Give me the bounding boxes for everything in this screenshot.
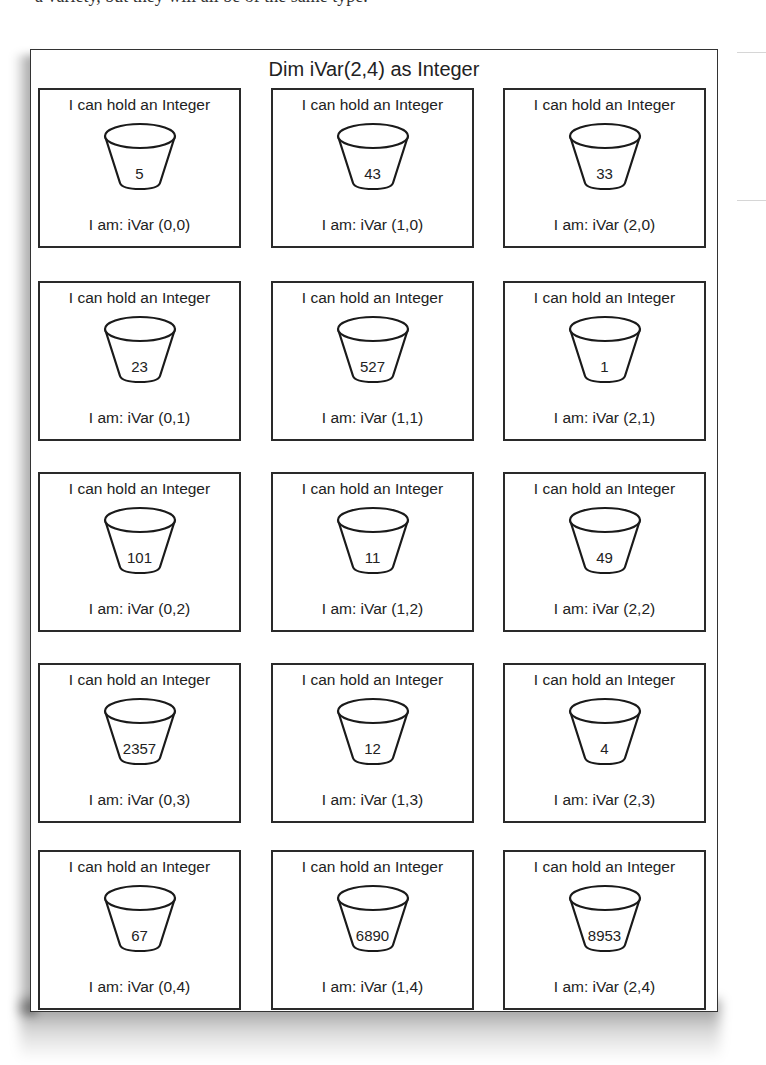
cell-value: 12 [273, 740, 472, 757]
cell-caption: I can hold an Integer [273, 671, 472, 689]
bucket-icon [103, 883, 177, 957]
cell-caption: I can hold an Integer [505, 671, 704, 689]
bucket-icon [568, 121, 642, 195]
cell-caption: I can hold an Integer [273, 480, 472, 498]
bucket-icon [568, 696, 642, 770]
cell-caption: I can hold an Integer [40, 480, 239, 498]
cell-value: 6890 [273, 927, 472, 944]
array-diagram: Dim iVar(2,4) as Integer I can hold an I… [30, 49, 718, 1012]
cell-value: 527 [273, 358, 472, 375]
cell-label: I am: iVar (0,3) [40, 791, 239, 809]
diagram-title: Dim iVar(2,4) as Integer [31, 58, 717, 81]
cell-value: 67 [40, 927, 239, 944]
cell-value: 49 [505, 549, 704, 566]
cell-caption: I can hold an Integer [505, 96, 704, 114]
cell-caption: I can hold an Integer [505, 480, 704, 498]
cell-value: 2357 [40, 740, 239, 757]
bucket-icon [336, 314, 410, 388]
cell-label: I am: iVar (0,1) [40, 409, 239, 427]
array-cell: I can hold an Integer 1 I am: iVar (2,1) [503, 281, 706, 441]
bucket-icon [336, 883, 410, 957]
cell-caption: I can hold an Integer [273, 289, 472, 307]
bucket-icon [336, 696, 410, 770]
cell-label: I am: iVar (2,4) [505, 978, 704, 996]
array-cell: I can hold an Integer 23 I am: iVar (0,1… [38, 281, 241, 441]
bucket-icon [103, 696, 177, 770]
cell-value: 5 [40, 165, 239, 182]
cell-label: I am: iVar (1,1) [273, 409, 472, 427]
array-cell: I can hold an Integer 67 I am: iVar (0,4… [38, 850, 241, 1010]
array-cell: I can hold an Integer 101 I am: iVar (0,… [38, 472, 241, 632]
cell-value: 4 [505, 740, 704, 757]
cell-caption: I can hold an Integer [505, 289, 704, 307]
array-cell: I can hold an Integer 11 I am: iVar (1,2… [271, 472, 474, 632]
array-cell: I can hold an Integer 33 I am: iVar (2,0… [503, 88, 706, 248]
cell-value: 1 [505, 358, 704, 375]
cell-caption: I can hold an Integer [40, 96, 239, 114]
array-cell: I can hold an Integer 2357 I am: iVar (0… [38, 663, 241, 823]
cell-caption: I can hold an Integer [40, 289, 239, 307]
array-cell: I can hold an Integer 5 I am: iVar (0,0) [38, 88, 241, 248]
cell-label: I am: iVar (1,2) [273, 600, 472, 618]
bucket-icon [568, 883, 642, 957]
cell-caption: I can hold an Integer [273, 858, 472, 876]
cell-label: I am: iVar (0,4) [40, 978, 239, 996]
cell-value: 43 [273, 165, 472, 182]
cell-label: I am: iVar (2,0) [505, 216, 704, 234]
cell-caption: I can hold an Integer [40, 858, 239, 876]
bucket-icon [568, 505, 642, 579]
cell-label: I am: iVar (2,2) [505, 600, 704, 618]
cell-label: I am: iVar (0,0) [40, 216, 239, 234]
cell-label: I am: iVar (1,0) [273, 216, 472, 234]
array-cell: I can hold an Integer 6890 I am: iVar (1… [271, 850, 474, 1010]
cell-value: 23 [40, 358, 239, 375]
cell-value: 11 [273, 549, 472, 566]
cell-caption: I can hold an Integer [505, 858, 704, 876]
array-cell: I can hold an Integer 49 I am: iVar (2,2… [503, 472, 706, 632]
array-cell: I can hold an Integer 527 I am: iVar (1,… [271, 281, 474, 441]
cell-label: I am: iVar (1,3) [273, 791, 472, 809]
cell-value: 101 [40, 549, 239, 566]
bucket-icon [103, 505, 177, 579]
cell-label: I am: iVar (1,4) [273, 978, 472, 996]
divider [737, 200, 766, 201]
cell-label: I am: iVar (2,1) [505, 409, 704, 427]
array-cell: I can hold an Integer 8953 I am: iVar (2… [503, 850, 706, 1010]
array-cell: I can hold an Integer 43 I am: iVar (1,0… [271, 88, 474, 248]
bucket-icon [568, 314, 642, 388]
bucket-icon [103, 121, 177, 195]
array-cell: I can hold an Integer 12 I am: iVar (1,3… [271, 663, 474, 823]
cell-value: 8953 [505, 927, 704, 944]
cell-label: I am: iVar (2,3) [505, 791, 704, 809]
bucket-icon [103, 314, 177, 388]
bucket-icon [336, 121, 410, 195]
divider [737, 52, 766, 53]
array-cell: I can hold an Integer 4 I am: iVar (2,3) [503, 663, 706, 823]
cell-caption: I can hold an Integer [273, 96, 472, 114]
cell-label: I am: iVar (0,2) [40, 600, 239, 618]
cell-caption: I can hold an Integer [40, 671, 239, 689]
bucket-icon [336, 505, 410, 579]
page-text-fragment: a variety, but they will all be of the s… [35, 0, 368, 7]
cell-value: 33 [505, 165, 704, 182]
